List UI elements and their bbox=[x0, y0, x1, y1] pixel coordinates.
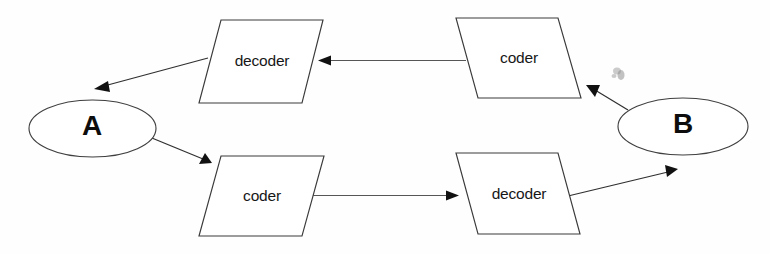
endpoint-b[interactable]: B bbox=[618, 98, 748, 155]
endpoint-b-label: B bbox=[673, 108, 693, 139]
node-decoder-bottom-label: decoder bbox=[492, 185, 547, 202]
edge-decoder-bottom-to-endpoint-b bbox=[568, 165, 678, 196]
node-coder-bottom[interactable]: coder bbox=[199, 156, 324, 236]
node-coder-bottom-label: coder bbox=[243, 187, 281, 204]
diagram-canvas: decoder coder coder decoder A B bbox=[0, 0, 770, 254]
edge-decoder-top-to-endpoint-a bbox=[94, 58, 208, 92]
edge-coder-bottom-to-decoder-bottom bbox=[313, 191, 459, 201]
edge-endpoint-a-to-coder-bottom bbox=[147, 136, 212, 164]
scan-smudge-artifact bbox=[612, 68, 625, 81]
endpoint-a[interactable]: A bbox=[29, 100, 156, 157]
endpoint-a-label: A bbox=[82, 110, 102, 141]
node-coder-top-label: coder bbox=[500, 49, 538, 66]
node-decoder-top-label: decoder bbox=[235, 52, 290, 69]
node-decoder-top[interactable]: decoder bbox=[199, 20, 323, 103]
node-coder-top[interactable]: coder bbox=[456, 18, 581, 98]
node-decoder-bottom[interactable]: decoder bbox=[456, 153, 580, 234]
edge-coder-top-to-decoder-top bbox=[318, 56, 466, 66]
edge-endpoint-b-to-coder-top bbox=[586, 85, 628, 110]
